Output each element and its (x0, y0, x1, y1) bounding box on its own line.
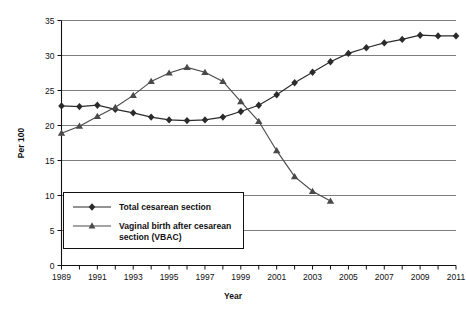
y-tick-label-30: 30 (45, 51, 55, 61)
y-tick-label-20: 20 (45, 121, 55, 131)
chart-background (0, 0, 466, 311)
y-axis-title: Per 100 (16, 128, 26, 159)
x-tick-label-1995: 1995 (160, 272, 179, 282)
y-tick-label-35: 35 (45, 16, 55, 26)
x-tick-label-2009: 2009 (411, 272, 430, 282)
x-tick-label-1999: 1999 (231, 272, 250, 282)
x-tick-label-2005: 2005 (339, 272, 358, 282)
legend-label-total-cesarean: Total cesarean section (119, 202, 211, 212)
x-tick-label-1997: 1997 (195, 272, 214, 282)
x-tick-label-2001: 2001 (267, 272, 286, 282)
x-tick-label-2011: 2011 (447, 272, 466, 282)
line-chart: 05101520253035 1989199119931995199719992… (0, 0, 466, 311)
x-axis-title: Year (224, 291, 243, 301)
chart-legend: Total cesarean section Vaginal birth aft… (64, 193, 244, 249)
x-tick-label-2007: 2007 (375, 272, 394, 282)
y-tick-label-0: 0 (50, 261, 55, 271)
legend-label-vbac-line1: Vaginal birth after cesarean (119, 221, 231, 231)
y-tick-label-10: 10 (45, 191, 55, 201)
y-tick-label-5: 5 (50, 226, 55, 236)
x-tick-label-1993: 1993 (124, 272, 143, 282)
x-tick-label-1991: 1991 (88, 272, 107, 282)
chart-figure: 05101520253035 1989199119931995199719992… (0, 0, 466, 311)
x-tick-label-2003: 2003 (303, 272, 322, 282)
y-tick-label-25: 25 (45, 86, 55, 96)
legend-label-vbac-line2: section (VBAC) (119, 232, 182, 242)
y-tick-label-15: 15 (45, 156, 55, 166)
x-tick-label-1989: 1989 (52, 272, 71, 282)
